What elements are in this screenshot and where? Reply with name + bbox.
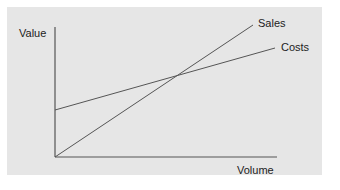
y-axis-label: Value (19, 27, 46, 39)
costs-line (55, 48, 275, 110)
sales-label: Sales (258, 17, 286, 29)
costs-label: Costs (281, 41, 310, 53)
sales-line (55, 25, 253, 157)
break-even-chart: Value Volume Sales Costs (0, 0, 340, 190)
x-axis-label: Volume (237, 164, 274, 176)
